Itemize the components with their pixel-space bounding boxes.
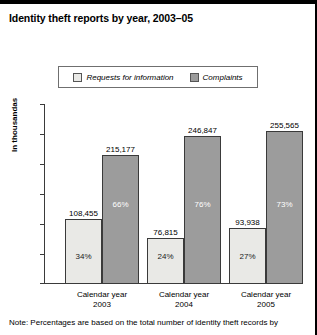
chart-figure: Identity theft reports by year, 2003–05 …: [0, 0, 317, 335]
y-axis-line: [44, 104, 45, 284]
bar-percent-requests-2004: 24%: [157, 252, 173, 261]
bar-value-complaints-2005: 255,565: [270, 121, 299, 130]
x-axis-label-2003-line1: Calendar year: [77, 290, 127, 299]
chart-footnote: Note: Percentages are based on the total…: [9, 318, 309, 328]
legend-label-complaints: Complaints: [203, 73, 243, 82]
bar-value-complaints-2004: 246,847: [188, 126, 217, 135]
x-axis-label-2003-line2: 2003: [93, 300, 111, 309]
bar-percent-complaints-2005: 73%: [276, 200, 292, 209]
x-axis-label-2005: Calendar year 2005: [241, 290, 291, 310]
bar-requests-2003: 108,455 34%: [65, 219, 102, 284]
bar-value-requests-2003: 108,455: [69, 209, 98, 218]
x-axis-label-2005-line1: Calendar year: [241, 290, 291, 299]
y-axis-title: In thousandas: [10, 98, 19, 152]
legend-item-requests: Requests for information: [73, 73, 173, 82]
y-tick-150: [40, 194, 44, 195]
bar-complaints-2004: 246,847 76%: [184, 136, 221, 284]
legend-swatch-icon-requests: [73, 73, 82, 82]
bar-percent-complaints-2004: 76%: [194, 200, 210, 209]
x-axis-label-2003: Calendar year 2003: [77, 290, 127, 310]
bar-requests-2005: 93,938 27%: [229, 228, 266, 284]
plot-area: 300 250 200 150 100 50 0 108,455 34% 215…: [44, 104, 302, 284]
bar-requests-2004: 76,815 24%: [147, 238, 184, 284]
bar-complaints-2003: 215,177 66%: [102, 155, 139, 284]
bar-percent-requests-2005: 27%: [239, 252, 255, 261]
bar-complaints-2005: 255,565 73%: [266, 131, 303, 284]
top-rule: [0, 0, 317, 4]
bar-value-complaints-2003: 215,177: [106, 145, 135, 154]
y-tick-200: [40, 164, 44, 165]
legend-label-requests: Requests for information: [86, 73, 173, 82]
page-title: Identity theft reports by year, 2003–05: [9, 12, 193, 24]
legend-item-complaints: Complaints: [190, 73, 243, 82]
y-tick-50: [40, 254, 44, 255]
legend-swatch-icon-complaints: [190, 73, 199, 82]
bar-percent-complaints-2003: 66%: [112, 200, 128, 209]
y-tick-100: [40, 224, 44, 225]
bar-percent-requests-2003: 34%: [75, 252, 91, 261]
y-tick-250: [40, 134, 44, 135]
x-axis-label-2004-line1: Calendar year: [159, 290, 209, 299]
y-tick-0: [40, 283, 44, 284]
x-axis-label-2004-line2: 2004: [175, 300, 193, 309]
y-tick-300: [40, 104, 44, 105]
x-axis-label-2005-line2: 2005: [257, 300, 275, 309]
bar-value-requests-2004: 76,815: [153, 228, 177, 237]
chart-legend: Requests for information Complaints: [58, 66, 258, 88]
x-axis-label-2004: Calendar year 2004: [159, 290, 209, 310]
bar-value-requests-2005: 93,938: [235, 218, 259, 227]
